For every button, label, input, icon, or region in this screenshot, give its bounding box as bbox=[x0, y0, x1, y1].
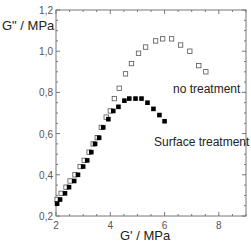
data-point-filled bbox=[157, 113, 162, 118]
data-point-filled bbox=[67, 185, 72, 190]
y-tick-label: 0,4 bbox=[39, 170, 53, 181]
data-point-filled bbox=[139, 96, 144, 101]
data-point-filled bbox=[151, 107, 156, 112]
data-point-filled bbox=[81, 164, 86, 169]
y-tick-label: 1,0 bbox=[39, 46, 53, 57]
data-point-open bbox=[136, 51, 140, 55]
data-point-filled bbox=[116, 105, 121, 110]
data-point-filled bbox=[58, 197, 63, 202]
data-point-filled bbox=[127, 96, 132, 101]
data-point-filled bbox=[55, 201, 60, 206]
data-point-open bbox=[68, 179, 72, 183]
data-point-open bbox=[123, 72, 127, 76]
y-tick-label: 0,8 bbox=[39, 87, 53, 98]
y-tick-label: 0,6 bbox=[39, 129, 53, 140]
data-point-filled bbox=[122, 98, 127, 103]
x-tick-label: 8 bbox=[216, 220, 222, 231]
chart: 24680,20,40,60,81,01,2 G" / MPa G' / MPa… bbox=[0, 0, 251, 247]
data-point-filled bbox=[106, 117, 111, 122]
data-point-filled bbox=[133, 96, 138, 101]
data-point-open bbox=[112, 96, 116, 100]
data-point-open bbox=[160, 37, 164, 41]
data-point-filled bbox=[85, 158, 90, 163]
data-point-open bbox=[197, 63, 201, 67]
data-point-open bbox=[188, 49, 192, 53]
axis-ticks bbox=[56, 10, 246, 216]
data-point-open bbox=[117, 86, 121, 90]
data-point-filled bbox=[72, 179, 77, 184]
y-tick-label: 0,2 bbox=[39, 211, 53, 222]
tick-labels: 24680,20,40,60,81,01,2 bbox=[39, 5, 222, 231]
data-point-filled bbox=[63, 191, 68, 196]
data-point-filled bbox=[97, 135, 102, 140]
data-point-filled bbox=[111, 109, 116, 114]
data-point-filled bbox=[93, 142, 98, 147]
x-tick-label: 4 bbox=[108, 220, 114, 231]
data-point-open bbox=[143, 45, 147, 49]
data-point-filled bbox=[101, 125, 106, 130]
annotation-no-treatment: no treatment bbox=[173, 82, 241, 96]
x-axis-title: G' / MPa bbox=[120, 228, 171, 243]
data-point-filled bbox=[162, 119, 167, 124]
data-point-open bbox=[204, 70, 208, 74]
annotation-surface-treatment: Surface treatment bbox=[154, 135, 250, 149]
y-tick-label: 1,2 bbox=[39, 5, 53, 16]
x-tick-label: 2 bbox=[53, 220, 59, 231]
data-point-filled bbox=[145, 100, 150, 105]
plot-frame bbox=[56, 10, 246, 216]
data-point-open bbox=[129, 61, 133, 65]
data-point-filled bbox=[76, 173, 81, 178]
y-axis-title: G" / MPa bbox=[2, 18, 55, 33]
data-point-filled bbox=[89, 150, 94, 155]
data-point-open bbox=[169, 37, 173, 41]
data-point-open bbox=[153, 39, 157, 43]
data-point-open bbox=[178, 43, 182, 47]
